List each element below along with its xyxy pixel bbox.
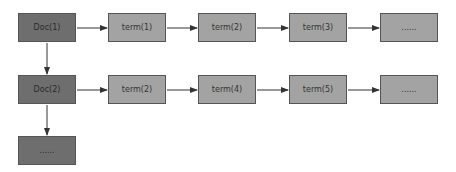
term-node: term(1) bbox=[108, 13, 166, 42]
term-node-more: ...... bbox=[380, 75, 438, 104]
term-node: term(2) bbox=[198, 13, 256, 42]
doc-node-2: Doc(2) bbox=[18, 75, 76, 104]
term-node: term(2) bbox=[108, 75, 166, 104]
doc-node-1: Doc(1) bbox=[18, 13, 76, 42]
term-node: term(3) bbox=[289, 13, 347, 42]
doc-node-more: ...... bbox=[18, 136, 76, 165]
term-node: term(4) bbox=[198, 75, 256, 104]
term-node-more: ...... bbox=[380, 13, 438, 42]
term-node: term(5) bbox=[289, 75, 347, 104]
